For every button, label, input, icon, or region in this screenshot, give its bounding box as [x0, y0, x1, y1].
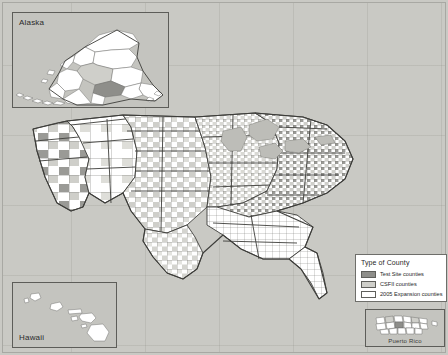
legend-label-expansion-2005: 2005 Expansion counties — [380, 291, 443, 298]
legend-label-test-site: Test Site counties — [380, 271, 424, 278]
legend-label-csfii: CSFII counties — [380, 281, 417, 288]
hawaii-inset-label: Hawaii — [19, 333, 44, 342]
contiguous-us-map — [27, 107, 387, 307]
legend-item-csfii: CSFII counties — [361, 280, 442, 288]
figure-frame: Alaska — [2, 2, 446, 353]
puerto-rico-inset-label: Puerto Rico — [366, 338, 444, 344]
map-figure: Alaska — [0, 0, 448, 355]
puerto-rico-municipios — [376, 316, 437, 334]
legend-item-test-site: Test Site counties — [361, 270, 442, 278]
us-counties-svg — [27, 107, 387, 307]
legend-item-expansion-2005: 2005 Expansion counties — [361, 290, 442, 298]
puerto-rico-map — [366, 310, 444, 340]
alaska-inset-label: Alaska — [19, 18, 44, 27]
legend-swatch-csfii — [361, 281, 376, 288]
legend-swatch-test-site — [361, 271, 376, 278]
legend-swatch-expansion-2005 — [361, 291, 376, 298]
alaska-map — [13, 13, 168, 107]
legend-title: Type of County — [361, 258, 442, 267]
puerto-rico-inset: Puerto Rico — [365, 309, 445, 347]
alaska-inset: Alaska — [12, 12, 169, 108]
map-legend: Type of County Test Site counties CSFII … — [355, 254, 447, 302]
